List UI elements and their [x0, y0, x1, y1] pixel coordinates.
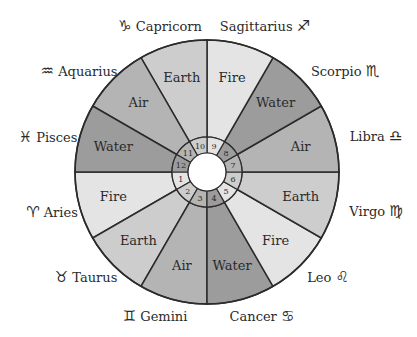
sign-label-leo: Leo ♌︎ — [307, 268, 349, 286]
sign-name: Taurus — [72, 270, 117, 285]
house-number: 6 — [231, 175, 236, 184]
element-label: Air — [290, 139, 312, 154]
sign-name: Leo — [307, 270, 331, 285]
element-label: Water — [256, 95, 296, 110]
sign-name: Virgo — [349, 204, 385, 219]
house-number: 10 — [195, 142, 205, 151]
aries-icon: ♈︎ — [26, 203, 39, 221]
house-number: 11 — [183, 149, 193, 158]
sign-label-gemini: ♊︎ Gemini — [123, 307, 188, 325]
sign-name: Cancer — [230, 309, 277, 324]
sign-label-aries: ♈︎ Aries — [26, 203, 78, 221]
leo-icon: ♌︎ — [335, 268, 348, 286]
house-number: 4 — [211, 194, 216, 203]
gemini-icon: ♊︎ — [123, 307, 136, 325]
element-label: Earth — [282, 189, 320, 204]
sign-label-virgo: Virgo ♍︎ — [349, 202, 402, 220]
sign-name: Sagittarius — [220, 19, 293, 34]
element-label: Air — [128, 95, 150, 110]
libra-icon: ♎︎ — [389, 127, 402, 145]
house-number: 9 — [211, 142, 216, 151]
virgo-icon: ♍︎ — [389, 202, 402, 220]
cancer-icon: ♋︎ — [281, 307, 294, 325]
sign-name: Libra — [350, 129, 385, 144]
house-number: 1 — [178, 175, 183, 184]
element-label: Water — [213, 258, 253, 273]
sign-label-pisces: ♓︎ Pisces — [19, 128, 78, 146]
sign-name: Capricorn — [136, 19, 202, 34]
sign-label-capricorn: ♑︎ Capricorn — [118, 17, 202, 35]
sign-name: Aquarius — [58, 64, 117, 79]
house-number: 3 — [197, 194, 202, 203]
element-label: Earth — [163, 70, 201, 85]
sign-name: Gemini — [140, 309, 187, 324]
aquarius-icon: ♒︎ — [41, 62, 54, 80]
element-label: Water — [94, 139, 134, 154]
scorpio-icon: ♏︎ — [366, 62, 379, 80]
sign-label-scorpio: Scorpio ♏︎ — [311, 62, 379, 80]
element-label: Earth — [120, 233, 158, 248]
sign-name: Scorpio — [311, 64, 362, 79]
sign-label-libra: Libra ♎︎ — [350, 127, 403, 145]
sign-label-aquarius: ♒︎ Aquarius — [41, 62, 118, 80]
sign-name: Aries — [44, 205, 78, 220]
sign-label-taurus: ♉︎ Taurus — [55, 268, 118, 286]
sign-label-sagittarius: Sagittarius ♐︎ — [220, 17, 310, 35]
taurus-icon: ♉︎ — [55, 268, 68, 286]
zodiac-wheel: FireEarthAirWaterFireEarthAirWaterFireEa… — [0, 0, 417, 337]
element-label: Air — [171, 258, 193, 273]
house-number: 12 — [176, 161, 186, 170]
sign-name: Pisces — [36, 130, 77, 145]
house-number: 2 — [185, 187, 190, 196]
sign-label-cancer: Cancer ♋︎ — [230, 307, 295, 325]
element-label: Fire — [262, 233, 289, 248]
center-circle — [188, 153, 226, 191]
sagittarius-icon: ♐︎ — [297, 17, 310, 35]
pisces-icon: ♓︎ — [19, 128, 32, 146]
element-label: Fire — [100, 189, 127, 204]
house-number: 5 — [224, 187, 229, 196]
house-number: 7 — [231, 161, 236, 170]
capricorn-icon: ♑︎ — [118, 17, 131, 35]
element-label: Fire — [219, 70, 246, 85]
house-number: 8 — [224, 149, 229, 158]
